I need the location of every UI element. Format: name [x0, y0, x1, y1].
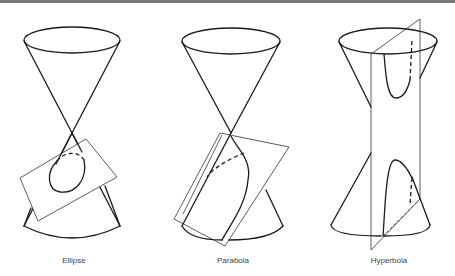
parabola-cone-upper-right-edge — [231, 42, 280, 133]
label-parabola: Parabola — [183, 256, 283, 265]
label-ellipse: Ellipse — [24, 256, 124, 265]
ellipse-cone-upper-left-edge — [24, 41, 72, 133]
hyperbola-upper-branch-hidden — [410, 40, 412, 80]
hyperbola-cone-lower-right-edge — [412, 177, 430, 225]
parabola-cone-upper-left-edge — [182, 42, 231, 133]
hyperbola-cone-top-rim — [339, 28, 437, 54]
hyperbola-lower-branch-hidden — [410, 178, 412, 204]
ellipse-cutting-plane — [20, 139, 117, 221]
conic-sections-diagram — [0, 0, 455, 276]
ellipse-cone-top-rim — [24, 27, 120, 53]
ellipse-cone-lower-right-visible — [105, 186, 120, 226]
parabola-cone-lower-right-edge — [266, 190, 283, 226]
hyperbola-lower-branch — [383, 160, 412, 236]
hyperbola-cone-bottom-rim — [331, 225, 381, 236]
label-hyperbola: Hyperbola — [339, 256, 439, 265]
parabola-panel — [174, 28, 289, 246]
hyperbola-cone-lower-left-edge — [331, 153, 371, 225]
hyperbola-panel — [331, 19, 437, 250]
parabola-cone-bottom-rim-right — [229, 226, 283, 240]
hyperbola-upper-branch — [384, 54, 410, 98]
hyperbola-cone-upper-left-edge — [339, 42, 371, 107]
ellipse-cone-upper-right-edge — [72, 41, 120, 133]
hyperbola-cone-bottom-rim-right — [384, 225, 430, 236]
parabola-cutting-plane — [174, 133, 289, 246]
parabola-cone-top-rim — [182, 28, 280, 54]
ellipse-panel — [20, 27, 120, 238]
ellipse-cone-lower-left-visible — [24, 208, 31, 226]
ellipse-cone-bottom-rim — [24, 226, 120, 238]
hyperbola-cone-upper-right-edge — [420, 42, 437, 78]
